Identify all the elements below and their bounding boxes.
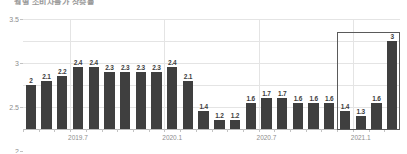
x-axis-tick-mark: [70, 129, 71, 132]
bar-value-label: 2.3: [137, 64, 145, 71]
x-axis-tick-mark: [290, 129, 291, 132]
plot-area: 3.532.521.51 22.12.22.42.42.32.32.32.32.…: [23, 19, 400, 129]
bar: [293, 103, 303, 129]
x-axis-tick-mark: [164, 129, 165, 132]
x-axis-tick-mark: [196, 129, 197, 132]
x-axis-tick-mark: [149, 129, 150, 132]
bar: [73, 67, 83, 129]
bar-value-label: 1.4: [199, 103, 207, 110]
bar-chart: 월별 소비자물가 상승률 3.532.521.51 22.12.22.42.42…: [0, 0, 407, 153]
chart-title: 월별 소비자물가 상승률: [14, 0, 94, 5]
bar: [277, 98, 287, 129]
bar: [198, 111, 208, 129]
bar-value-label: 2.1: [184, 73, 192, 80]
bar: [26, 85, 36, 129]
bar-value-label: 2.1: [42, 73, 50, 80]
x-axis-tick-label: 2020.7: [257, 134, 277, 141]
x-axis-tick-mark: [227, 129, 228, 132]
y-axis-tick-mark: [20, 151, 23, 152]
bar-value-label: 2.4: [74, 59, 82, 66]
bar: [214, 120, 224, 129]
bar-value-label: 1.4: [341, 103, 349, 110]
bar: [324, 103, 334, 129]
x-axis-tick-mark: [306, 129, 307, 132]
x-axis-tick-mark: [54, 129, 55, 132]
bar-value-label: 1.6: [294, 95, 302, 102]
x-axis-tick-label: 2019.7: [68, 134, 88, 141]
bar: [57, 76, 67, 129]
bar-value-label: 1.2: [231, 112, 239, 119]
bar: [151, 72, 161, 129]
bar: [308, 103, 318, 129]
x-axis-tick-mark: [86, 129, 87, 132]
x-axis-tick-mark: [39, 129, 40, 132]
bar-value-label: 1.6: [325, 95, 333, 102]
x-axis-tick-label: 2021.1: [351, 134, 371, 141]
bar-value-label: 1.3: [357, 108, 365, 115]
x-axis-tick-mark: [133, 129, 134, 132]
bar: [136, 72, 146, 129]
bar-value-label: 3: [390, 33, 393, 40]
bar: [340, 111, 350, 129]
bar: [356, 116, 366, 129]
bar-value-label: 2.3: [121, 64, 129, 71]
x-axis-tick-label: 2020.1: [162, 134, 182, 141]
bar: [371, 103, 381, 129]
x-axis-tick-mark: [243, 129, 244, 132]
category-axis: 2019.72020.12020.72021.1: [23, 129, 400, 149]
x-axis-tick-mark: [337, 129, 338, 132]
x-axis-tick-mark: [384, 129, 385, 132]
bar-value-label: 2.2: [58, 68, 66, 75]
bar-value-label: 2.4: [168, 59, 176, 66]
bar-value-label: 1.6: [309, 95, 317, 102]
bar: [167, 67, 177, 129]
y-axis-tick-label: 3.5: [9, 16, 19, 23]
x-axis-tick-mark: [23, 129, 24, 132]
y-axis-tick-label: 3: [15, 60, 19, 67]
x-axis-tick-mark: [353, 129, 354, 132]
bar: [261, 98, 271, 129]
x-axis-tick-mark: [259, 129, 260, 132]
x-axis-tick-mark: [180, 129, 181, 132]
y-axis-tick-label: 2.5: [9, 104, 19, 111]
bar: [246, 103, 256, 129]
bar: [183, 81, 193, 129]
bar-value-label: 1.7: [262, 90, 270, 97]
bar: [387, 41, 397, 129]
bar-value-label: 2.4: [89, 59, 97, 66]
x-axis-tick-mark: [212, 129, 213, 132]
bar: [41, 81, 51, 129]
x-axis-tick-mark: [274, 129, 275, 132]
bar-value-label: 1.6: [247, 95, 255, 102]
x-axis-tick-mark: [102, 129, 103, 132]
bar-value-label: 1.2: [215, 112, 223, 119]
x-axis-tick-mark: [321, 129, 322, 132]
bar-value-label: 2: [29, 77, 32, 84]
bar: [104, 72, 114, 129]
bar: [120, 72, 130, 129]
bar-value-label: 2.3: [152, 64, 160, 71]
x-axis-tick-mark: [117, 129, 118, 132]
bar-value-label: 2.3: [105, 64, 113, 71]
bar-series: 22.12.22.42.42.32.32.32.32.42.11.41.21.2…: [23, 19, 400, 129]
bar: [89, 67, 99, 129]
y-axis-tick-label: 2: [15, 148, 19, 154]
bar-value-label: 1.7: [278, 90, 286, 97]
x-axis-tick-mark: [369, 129, 370, 132]
bar-value-label: 1.6: [372, 95, 380, 102]
bar: [230, 120, 240, 129]
